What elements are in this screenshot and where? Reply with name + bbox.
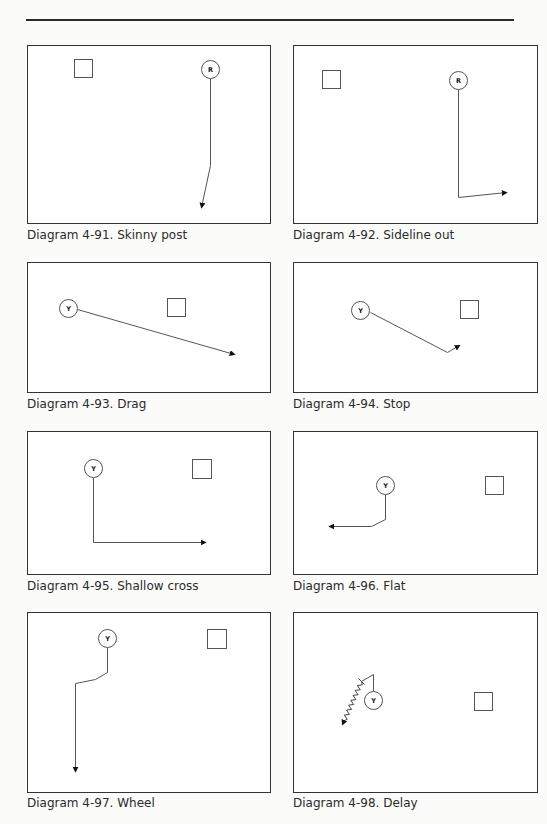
route-line bbox=[76, 648, 108, 772]
route-line bbox=[371, 313, 460, 353]
route-drawing: Y bbox=[294, 432, 539, 576]
defender-square-icon bbox=[168, 299, 186, 317]
defender-square-icon bbox=[461, 301, 479, 319]
route-drawing: R bbox=[28, 46, 272, 225]
diagram-caption: Diagram 4-97. Wheel bbox=[27, 796, 155, 810]
play-field: Y bbox=[293, 612, 538, 793]
route-drawing: R bbox=[294, 46, 539, 225]
player-label: Y bbox=[370, 697, 376, 705]
route-drawing: Y bbox=[294, 263, 539, 394]
receiver-circle-icon: R bbox=[450, 72, 468, 90]
route-drawing: Y bbox=[294, 613, 539, 794]
route-drawing: Y bbox=[28, 263, 272, 394]
diagram-caption: Diagram 4-92. Sideline out bbox=[293, 228, 454, 242]
defender-square-icon bbox=[208, 630, 227, 649]
play-field: Y bbox=[27, 262, 271, 393]
play-field: R bbox=[27, 45, 271, 224]
break-tick bbox=[359, 679, 365, 685]
play-field: Y bbox=[27, 612, 271, 793]
route-drawing: Y bbox=[28, 432, 272, 576]
play-field: Y bbox=[293, 262, 538, 393]
receiver-circle-icon: Y bbox=[352, 302, 370, 320]
diagram-caption: Diagram 4-93. Drag bbox=[27, 397, 146, 411]
receiver-circle-icon: Y bbox=[85, 460, 103, 478]
receiver-circle-icon: R bbox=[202, 61, 220, 79]
defender-square-icon bbox=[75, 60, 93, 78]
top-rule bbox=[26, 19, 514, 21]
route-line bbox=[78, 310, 235, 355]
defender-square-icon bbox=[475, 693, 493, 711]
delay-zigzag-line bbox=[343, 682, 363, 725]
diagram-caption: Diagram 4-91. Skinny post bbox=[27, 228, 187, 242]
player-label: R bbox=[208, 66, 213, 74]
player-label: Y bbox=[357, 307, 363, 315]
diagram-caption: Diagram 4-94. Stop bbox=[293, 397, 410, 411]
defender-square-icon bbox=[323, 71, 341, 89]
receiver-circle-icon: Y bbox=[99, 630, 117, 648]
defender-square-icon bbox=[486, 477, 504, 495]
play-field: Y bbox=[293, 431, 538, 575]
play-field: R bbox=[293, 45, 538, 224]
defender-square-icon bbox=[193, 460, 212, 479]
player-label: R bbox=[456, 77, 461, 85]
route-drawing: Y bbox=[28, 613, 272, 794]
play-field: Y bbox=[27, 431, 271, 575]
player-label: Y bbox=[90, 465, 96, 473]
route-line bbox=[330, 495, 386, 527]
diagram-caption: Diagram 4-95. Shallow cross bbox=[27, 579, 199, 593]
player-label: Y bbox=[65, 305, 71, 313]
route-line bbox=[202, 79, 211, 208]
diagram-caption: Diagram 4-98. Delay bbox=[293, 796, 418, 810]
receiver-circle-icon: Y bbox=[60, 300, 78, 318]
receiver-circle-icon: Y bbox=[365, 692, 383, 710]
receiver-circle-icon: Y bbox=[377, 477, 395, 495]
diagram-caption: Diagram 4-96. Flat bbox=[293, 579, 406, 593]
route-line bbox=[94, 478, 206, 543]
player-label: Y bbox=[382, 482, 388, 490]
player-label: Y bbox=[104, 635, 110, 643]
route-line bbox=[459, 90, 507, 198]
